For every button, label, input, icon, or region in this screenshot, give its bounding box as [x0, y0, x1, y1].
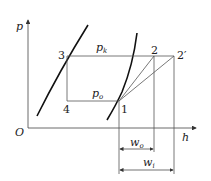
point-2prime-label: 2′ — [177, 49, 187, 62]
point-2-label: 2 — [151, 44, 158, 57]
compression-ideal — [119, 56, 154, 101]
pk-label: pk — [96, 41, 107, 55]
origin-label: O — [15, 126, 24, 139]
point-1-label: 1 — [121, 103, 128, 116]
point-4-label: 4 — [63, 103, 70, 116]
po-label: po — [92, 87, 103, 101]
ph-diagram: p h O 3 4 1 2 2′ pk po wo wi — [0, 0, 211, 181]
w0-label: wo — [130, 136, 144, 150]
y-axis-label: p — [16, 20, 23, 33]
x-axis-label: h — [182, 131, 189, 144]
point-3-label: 3 — [58, 49, 65, 62]
wi-label: wi — [143, 156, 155, 170]
